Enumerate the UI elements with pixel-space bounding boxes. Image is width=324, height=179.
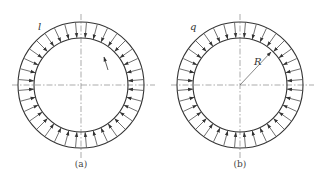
load-arrow	[101, 128, 107, 142]
load-arrow	[283, 59, 297, 65]
load-arrow	[252, 25, 256, 39]
load-arrow	[204, 34, 213, 46]
load-arrow	[183, 59, 197, 65]
load-arrow	[180, 97, 194, 101]
load-label: l	[38, 21, 41, 32]
load-arrow	[196, 41, 207, 52]
load-arrow	[279, 112, 291, 121]
load-arrow	[274, 119, 285, 130]
load-arrow	[214, 128, 220, 142]
load-arrow	[115, 119, 126, 130]
load-arrow	[244, 23, 245, 38]
small-direction-arrow	[104, 57, 108, 70]
load-arrow	[85, 23, 86, 38]
load-arrow	[287, 80, 302, 81]
load-arrow	[260, 28, 266, 42]
caption-b: (b)	[234, 159, 247, 169]
load-arrow	[128, 89, 143, 90]
load-label: q	[190, 21, 196, 32]
load-arrow	[274, 41, 285, 52]
load-arrow	[37, 41, 48, 52]
load-arrow	[224, 25, 228, 39]
load-arrow	[183, 105, 197, 111]
load-arrow	[128, 80, 143, 81]
load-arrow	[224, 131, 228, 145]
load-arrow	[85, 132, 86, 147]
load-arrow	[235, 23, 236, 38]
load-arrow	[204, 124, 213, 136]
load-arrow	[252, 131, 256, 145]
load-arrow	[244, 132, 245, 147]
load-arrow	[21, 69, 35, 73]
load-arrow	[76, 132, 77, 147]
load-arrow	[178, 80, 193, 81]
load-arrow	[214, 28, 220, 42]
load-arrow	[120, 112, 132, 121]
load-arrow	[45, 34, 54, 46]
load-arrow	[19, 80, 34, 81]
load-arrow	[196, 119, 207, 130]
load-arrow	[286, 69, 300, 73]
load-arrow	[55, 28, 61, 42]
load-arrow	[120, 49, 132, 58]
load-arrow	[37, 119, 48, 130]
load-arrow	[267, 124, 276, 136]
load-arrow	[93, 131, 97, 145]
load-arrow	[267, 34, 276, 46]
load-arrow	[279, 49, 291, 58]
load-arrow	[189, 112, 201, 121]
load-arrow	[180, 69, 194, 73]
load-arrow	[260, 128, 266, 142]
load-arrow	[65, 25, 69, 39]
load-arrow	[93, 25, 97, 39]
load-arrow	[30, 49, 42, 58]
load-arrow	[127, 69, 141, 73]
load-arrow	[21, 97, 35, 101]
load-arrow	[178, 89, 193, 90]
radius-label: R	[253, 56, 262, 67]
load-arrow	[45, 124, 54, 136]
load-arrow	[124, 105, 138, 111]
load-arrow	[65, 131, 69, 145]
load-arrow	[189, 49, 201, 58]
load-arrow	[101, 28, 107, 42]
load-arrow	[235, 132, 236, 147]
load-arrow	[115, 41, 126, 52]
load-arrow	[55, 128, 61, 142]
load-arrow	[124, 59, 138, 65]
load-arrow	[76, 23, 77, 38]
ring-load-diagram: l (a) R q (b)	[0, 0, 324, 179]
load-arrow	[24, 59, 38, 65]
load-arrow	[286, 97, 300, 101]
load-arrow	[108, 124, 117, 136]
load-arrow	[24, 105, 38, 111]
load-arrow	[30, 112, 42, 121]
panel-b: R q (b)	[171, 14, 314, 169]
load-arrow	[108, 34, 117, 46]
load-arrow	[283, 105, 297, 111]
caption-a: (a)	[75, 159, 87, 169]
panel-a: l (a)	[12, 14, 155, 169]
load-arrow	[127, 97, 141, 101]
load-arrow	[19, 89, 34, 90]
load-arrow	[287, 89, 302, 90]
